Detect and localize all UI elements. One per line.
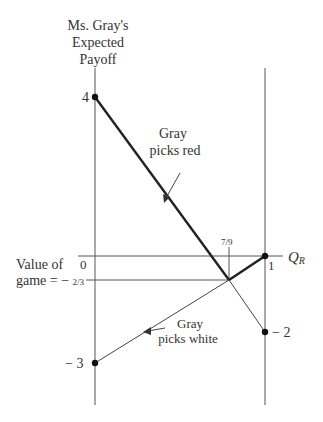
game-diagram: Ms. Gray's Expected Payoff 4 0 − 3 1 − 2… — [0, 0, 323, 422]
white-line-thin — [95, 280, 229, 363]
label-1: 1 — [268, 258, 275, 273]
title-line3: Payoff — [79, 52, 116, 67]
point-4 — [92, 94, 98, 100]
title-line1: Ms. Gray's — [68, 18, 129, 33]
red-line-bold — [95, 97, 229, 280]
label-0: 0 — [80, 257, 87, 272]
intersection-label: 7/9 — [221, 237, 233, 247]
annotation-white-line1: Gray — [177, 316, 203, 331]
value-of-game-line1: Value of — [16, 257, 63, 272]
title-line2: Expected — [72, 35, 124, 50]
arrow-red — [166, 173, 180, 198]
label-4: 4 — [82, 90, 89, 105]
point-neg2 — [262, 329, 268, 335]
annotation-red-line2: picks red — [150, 143, 201, 158]
arrow-white-head — [143, 327, 151, 335]
annotation-white-line2: picks white — [158, 331, 218, 346]
annotation-red-line1: Gray — [159, 126, 187, 141]
label-neg2: − 2 — [272, 325, 290, 340]
x-axis-label: QR — [288, 249, 305, 266]
label-neg3: − 3 — [65, 356, 83, 371]
red-line-thin — [229, 280, 265, 332]
white-line-bold — [229, 256, 265, 280]
point-neg3 — [92, 360, 98, 366]
value-of-game-line2: game = − 2/3 — [16, 273, 85, 288]
